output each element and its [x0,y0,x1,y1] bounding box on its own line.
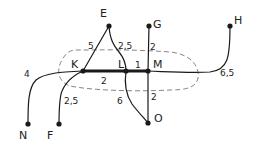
node-dots [25,23,232,126]
edge-G-M [148,26,149,71]
graph-diagram: EGHKLMNFO 2152,526,542,562 [0,0,255,145]
node-K-dot [80,68,85,73]
edge-E-K-weight: 5 [88,41,94,51]
node-labels: EGHKLMNFO [19,7,242,142]
edge-M-O-weight: 2 [151,92,157,102]
node-M-label: M [153,58,163,71]
edge-E-K [83,26,109,71]
node-L-label: L [118,58,125,71]
edge-E-L-weight: 2,5 [118,41,132,51]
edge-M-H-weight: 6,5 [220,68,234,78]
node-H-label: H [234,14,242,27]
edge-L-O-weight: 6 [117,96,123,106]
graph-canvas: EGHKLMNFO 2152,526,542,562 [0,0,255,145]
node-G-label: G [153,18,162,31]
edge-L-O [125,71,148,123]
node-E-label: E [100,7,107,20]
edge-L-M-weight: 1 [135,60,141,70]
edge-K-N-weight: 4 [24,69,30,79]
node-M-dot [145,68,150,73]
node-K-label: K [71,58,79,71]
node-N-dot [25,121,30,126]
node-N-label: N [19,129,27,142]
node-F-label: F [47,129,53,142]
node-O-label: O [154,112,163,125]
edge-K-L-weight: 2 [101,76,107,86]
edge-G-M-weight: 2 [150,42,156,52]
node-E-dot [106,23,111,28]
node-F-dot [56,121,61,126]
node-O-dot [145,120,150,125]
node-H-dot [227,23,232,28]
node-G-dot [146,23,151,28]
node-L-dot [123,68,128,73]
edge-K-F-weight: 2,5 [64,96,78,106]
